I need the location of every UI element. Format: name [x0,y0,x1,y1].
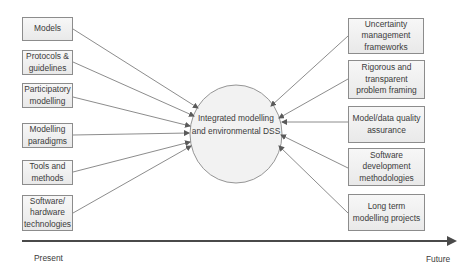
box-software-dev: Software development methodologies [348,148,425,186]
arrow-long-term [279,146,348,213]
arrow-tools [73,142,190,172]
box-uncertainty: Uncertainty management frameworks [348,18,424,54]
box-label: Models [34,23,61,35]
box-label: Modelling paradigms [24,124,71,147]
box-tools: Tools and methods [22,160,73,185]
box-rigorous: Rigorous and transparent problem framing [348,60,425,99]
arrow-uncertainty [271,36,348,106]
box-quality: Model/data quality assurance [348,106,425,143]
box-protocols: Protocols & guidelines [22,50,73,75]
box-label: Long term modelling projects [350,201,423,224]
box-label: Tools and methods [24,161,71,184]
timeline-arrowhead [447,236,457,246]
arrow-protocols [73,62,194,116]
box-models: Models [22,17,73,41]
box-long-term: Long term modelling projects [348,194,425,231]
box-software: Software/ hardware technologies [22,195,73,231]
box-label: Software development methodologies [350,150,423,185]
box-label: Uncertainty management frameworks [350,19,422,54]
box-label: Model/data quality assurance [350,113,423,136]
arrow-participatory [73,97,190,126]
arrow-models [73,29,198,108]
box-label: Rigorous and transparent problem framing [350,62,423,97]
box-paradigms: Modelling paradigms [22,123,73,148]
box-label: Software/ hardware technologies [24,196,71,231]
timeline-start-label: Present [34,253,63,263]
arrow-rigorous [279,79,348,118]
arrow-software-dev [281,135,348,168]
box-participatory: Participatory modelling [22,83,73,108]
arrow-software [73,146,191,213]
timeline-end-label: Future [426,254,450,264]
box-label: Participatory modelling [24,84,71,107]
box-label: Protocols & guidelines [24,51,71,74]
arrow-paradigms [73,133,189,135]
center-label: Integrated modelling and environmental D… [190,112,282,137]
